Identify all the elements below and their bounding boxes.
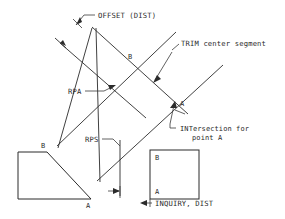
point-label-b-square: B — [155, 154, 159, 162]
label-trim-center-segment: TRIM center segment — [181, 39, 266, 48]
label-offset-dist: OFFSET (DIST) — [98, 11, 156, 20]
trapezoid-shape — [18, 152, 91, 199]
label-rpa: RPA — [68, 87, 82, 96]
trim-leader-stub — [172, 44, 179, 50]
trim-leader-arrowhead — [153, 75, 161, 83]
point-label-a-square: A — [155, 188, 160, 196]
construction-lines — [55, 27, 223, 196]
rpa-leader-arrowhead — [108, 85, 116, 90]
point-label-b-trapezoid: B — [41, 142, 45, 150]
point-label-a-trapezoid: A — [86, 202, 91, 210]
dimension-arrowhead — [113, 188, 120, 194]
diagonal-nw-se-primary — [92, 27, 188, 114]
diagram-canvas: OFFSET (DIST) TRIM center segment RPA RP… — [0, 0, 285, 219]
cad-drawing: OFFSET (DIST) TRIM center segment RPA RP… — [0, 0, 285, 219]
diagonal-sw-ne-lower — [97, 65, 223, 181]
label-intersection-line2: point A — [192, 134, 223, 142]
label-intersection-line1: INTersection for — [180, 125, 249, 133]
label-rps: RPS — [85, 135, 98, 144]
rps-leader-diagonal — [113, 139, 120, 146]
inquiry-leader-arrowhead — [140, 200, 147, 206]
point-label-b-upper: B — [128, 53, 132, 61]
intersection-leader-arrowhead — [170, 101, 177, 108]
leader-lines — [73, 15, 185, 207]
offset-parallel-line — [60, 43, 146, 118]
shapes-group — [18, 150, 199, 199]
point-a-tick — [175, 110, 185, 114]
label-inquiry-dist: INQUIRY, DIST — [155, 199, 214, 208]
